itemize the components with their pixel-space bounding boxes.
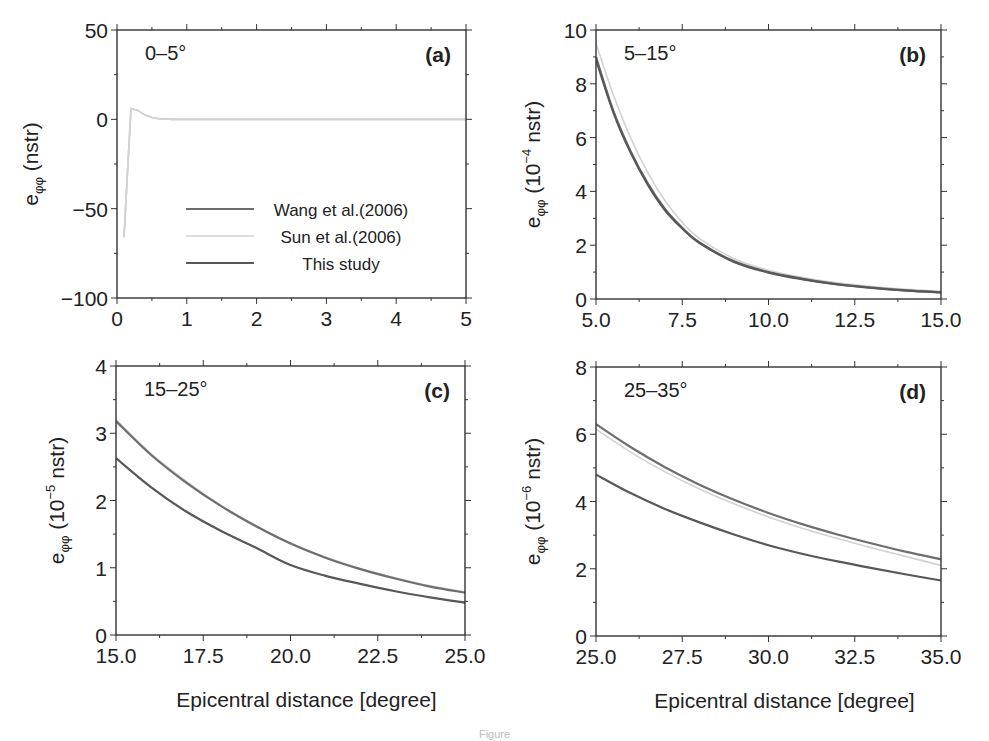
y-tick-label: 8 <box>575 356 587 379</box>
panel-b: 5.07.510.012.515.00246810eφφ (10−4 nstr)… <box>519 19 961 331</box>
y-tick-label: 6 <box>575 423 587 446</box>
x-axis-label: Epicentral distance [degree] <box>176 688 436 711</box>
legend-label: This study <box>302 255 380 274</box>
panel-a: 012345−100−50050eφφ (nstr)0–5°(a)Wang et… <box>19 19 472 330</box>
x-tick-label: 10.0 <box>748 308 789 331</box>
svg-text:eφφ (10−6 nstr): eφφ (10−6 nstr) <box>519 438 548 565</box>
x-tick-label: 2 <box>251 307 263 330</box>
range-annotation: 25–35° <box>624 379 688 401</box>
series-group <box>116 420 465 603</box>
x-axis-label: Epicentral distance [degree] <box>654 689 914 712</box>
panel-d: 25.027.530.032.535.002468eφφ (10−6 nstr)… <box>519 356 961 712</box>
y-tick-label: 0 <box>96 108 108 131</box>
y-tick-label: 0 <box>575 625 587 648</box>
x-tick-label: 27.5 <box>662 645 703 668</box>
x-tick-label: 30.0 <box>748 645 789 668</box>
y-tick-label: 10 <box>564 19 587 42</box>
panel-letter: (a) <box>425 43 451 66</box>
figure-canvas: 012345−100−50050eφφ (nstr)0–5°(a)Wang et… <box>0 0 989 741</box>
y-axis-label: eφφ (nstr) <box>19 122 46 205</box>
x-tick-label: 3 <box>321 307 333 330</box>
x-tick-label: 5.0 <box>581 308 610 331</box>
y-tick-label: 8 <box>575 73 587 96</box>
y-tick-label: 0 <box>575 288 587 311</box>
y-tick-label: 50 <box>85 19 108 42</box>
panel-c: 15.017.520.022.525.001234eφφ (10−5 nstr)… <box>43 355 485 711</box>
y-tick-label: 0 <box>95 624 107 647</box>
y-tick-label: 3 <box>95 422 107 445</box>
series-line <box>596 57 941 292</box>
legend-label: Sun et al.(2006) <box>281 228 402 247</box>
x-tick-label: 1 <box>181 307 193 330</box>
x-tick-label: 25.0 <box>576 645 617 668</box>
x-tick-label: 20.0 <box>270 644 311 667</box>
y-tick-label: 2 <box>95 490 107 513</box>
y-axis-label: eφφ (10−6 nstr) <box>519 438 548 565</box>
x-tick-label: 7.5 <box>668 308 697 331</box>
figure-caption-fragment: Figure <box>0 728 989 740</box>
series-line <box>596 424 941 559</box>
legend: Wang et al.(2006)Sun et al.(2006)This st… <box>186 201 408 274</box>
range-annotation: 15–25° <box>144 378 208 400</box>
y-axis-label: eφφ (10−5 nstr) <box>43 437 72 564</box>
svg-text:eφφ (10−5 nstr): eφφ (10−5 nstr) <box>43 437 72 564</box>
x-tick-label: 22.5 <box>357 644 398 667</box>
y-tick-label: 4 <box>575 491 587 514</box>
x-tick-label: 15.0 <box>96 644 137 667</box>
x-tick-label: 15.0 <box>921 308 962 331</box>
y-tick-label: 6 <box>575 127 587 150</box>
x-tick-label: 12.5 <box>834 308 875 331</box>
x-tick-label: 17.5 <box>183 644 224 667</box>
legend-label: Wang et al.(2006) <box>274 201 409 220</box>
series-line <box>596 60 941 293</box>
plot-frame <box>117 30 466 298</box>
panel-letter: (b) <box>899 43 926 66</box>
y-tick-label: −100 <box>61 287 108 310</box>
panel-letter: (c) <box>424 379 450 402</box>
y-tick-label: 4 <box>95 355 107 378</box>
plot-frame <box>596 30 941 299</box>
x-tick-label: 25.0 <box>445 644 486 667</box>
y-tick-label: −50 <box>72 198 108 221</box>
series-line <box>596 475 941 581</box>
series-line <box>596 43 941 291</box>
x-tick-label: 5 <box>460 307 472 330</box>
x-tick-label: 32.5 <box>834 645 875 668</box>
series-group <box>596 424 941 580</box>
series-group <box>596 43 941 292</box>
x-tick-label: 35.0 <box>921 645 962 668</box>
x-tick-label: 4 <box>390 307 402 330</box>
svg-text:eφφ (10−4 nstr): eφφ (10−4 nstr) <box>519 101 548 228</box>
y-tick-label: 2 <box>575 558 587 581</box>
range-annotation: 5–15° <box>624 42 677 64</box>
x-tick-label: 0 <box>111 307 123 330</box>
series-line <box>116 421 465 592</box>
y-tick-label: 4 <box>575 180 587 203</box>
panel-letter: (d) <box>899 380 926 403</box>
svg-text:eφφ (nstr): eφφ (nstr) <box>19 122 46 205</box>
y-tick-label: 2 <box>575 234 587 257</box>
series-line <box>116 458 465 603</box>
range-annotation: 0–5° <box>145 42 186 64</box>
y-tick-label: 1 <box>95 557 107 580</box>
y-axis-label: eφφ (10−4 nstr) <box>519 101 548 228</box>
